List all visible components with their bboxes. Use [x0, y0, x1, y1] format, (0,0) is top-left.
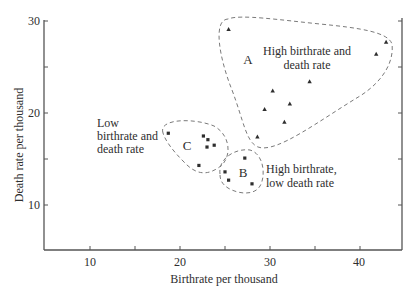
region-a-label-line2: death rate: [284, 58, 331, 72]
data-point-triangle: [384, 40, 388, 44]
x-tick-10: 10: [84, 255, 96, 269]
region-b-label-line2: low death rate: [266, 176, 334, 190]
region-c-label-line1: Low: [97, 116, 119, 130]
data-point-triangle: [262, 107, 266, 111]
x-axis-title: Birthrate per thousand: [170, 272, 277, 286]
data-point-dot: [197, 164, 200, 167]
region-b-label-line1: High birthrate,: [266, 162, 337, 176]
region-a-annotation: A High birthrate and death rate: [243, 44, 351, 72]
region-a-outline: [219, 17, 392, 148]
region-c-label-line3: death rate: [97, 142, 144, 156]
data-point-dot: [213, 144, 216, 147]
data-point-dot: [243, 156, 246, 159]
data-point-triangle: [271, 89, 275, 93]
data-point-triangle: [255, 135, 259, 139]
data-point-dot: [206, 138, 209, 141]
x-tick-40: 40: [353, 255, 365, 269]
data-point-dot: [223, 170, 226, 173]
x-tick-20: 20: [174, 255, 186, 269]
y-tick-20: 20: [28, 106, 40, 120]
y-tick-labels: 10 20 30: [28, 14, 40, 212]
y-axis-title: Death rate per thousand: [12, 88, 26, 202]
region-b-annotation: B High birthrate, low death rate: [239, 162, 337, 190]
region-c-letter: C: [183, 138, 192, 153]
region-b-letter: B: [239, 165, 248, 180]
scatter-chart: 10 20 30 40 10 20 30 Birthrate per thous…: [0, 0, 418, 293]
data-point-triangle: [282, 120, 286, 124]
region-a-letter: A: [243, 52, 253, 67]
data-point-triangle: [288, 101, 292, 105]
x-tick-labels: 10 20 30 40: [84, 255, 365, 269]
y-tick-10: 10: [28, 198, 40, 212]
y-tick-30: 30: [28, 14, 40, 28]
data-point-triangle: [307, 79, 311, 83]
data-point-triangle: [226, 27, 230, 31]
data-point-dot: [202, 134, 205, 137]
region-a-label-line1: High birthrate and: [263, 44, 351, 58]
region-c-outline: [163, 121, 229, 173]
region-c-label-line2: birthrate and: [97, 129, 158, 143]
data-point-dot: [250, 182, 253, 185]
data-point-dot: [167, 132, 170, 135]
data-point-dot: [205, 145, 208, 148]
region-c-annotation: C Low birthrate and death rate: [97, 116, 191, 156]
data-point-triangle: [374, 52, 378, 56]
data-point-dot: [227, 179, 230, 182]
x-tick-30: 30: [264, 255, 276, 269]
